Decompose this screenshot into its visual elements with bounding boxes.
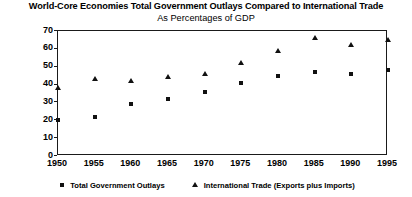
legend-label: Total Government Outlays (70, 181, 164, 190)
data-point (165, 74, 171, 79)
data-point (93, 115, 97, 119)
data-point (239, 81, 243, 85)
legend-label: International Trade (Exports plus Import… (204, 181, 355, 190)
data-point (128, 78, 134, 83)
data-point (56, 118, 60, 122)
data-point (203, 90, 207, 94)
x-tick-label: 1995 (362, 159, 412, 168)
y-tick-label: 70 (5, 26, 53, 35)
data-point (129, 102, 133, 106)
y-tick-label: 40 (5, 79, 53, 88)
data-point (166, 97, 170, 101)
data-point (385, 37, 391, 42)
legend-marker (60, 183, 64, 187)
legend-entry[interactable]: International Trade (Exports plus Import… (191, 181, 355, 190)
y-tick-mark (54, 155, 57, 156)
legend-entry[interactable]: Total Government Outlays (57, 181, 164, 190)
data-point (275, 48, 281, 53)
chart-legend: Total Government OutlaysInternational Tr… (0, 178, 412, 192)
data-point (348, 42, 354, 47)
data-point (276, 74, 280, 78)
data-point (313, 70, 317, 74)
y-tick-label: 10 (5, 133, 53, 142)
square-marker-icon (57, 181, 66, 190)
chart-title: World-Core Economies Total Government Ou… (0, 1, 412, 11)
y-tick-label: 60 (5, 43, 53, 52)
data-point (238, 60, 244, 65)
data-point (202, 71, 208, 76)
legend-marker (192, 182, 198, 187)
x-axis-labels: 1950195519601965197019751980198519901995 (0, 159, 412, 171)
chart-figure: World-Core Economies Total Government Ou… (0, 0, 412, 197)
triangle-marker-icon (191, 181, 200, 190)
data-point (312, 35, 318, 40)
chart-subtitle: As Percentages of GDP (0, 13, 412, 23)
data-point (349, 72, 353, 76)
y-tick-label: 20 (5, 115, 53, 124)
data-point (55, 85, 61, 90)
data-point (386, 68, 390, 72)
y-tick-label: 50 (5, 61, 53, 70)
data-point (92, 76, 98, 81)
y-tick-label: 30 (5, 97, 53, 106)
plot-area (57, 30, 387, 155)
